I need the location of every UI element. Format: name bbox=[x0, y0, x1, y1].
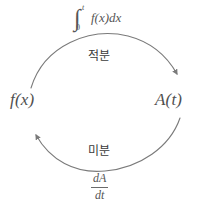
cycle-diagram: f(x) A(t) 적분 미분 ∫ t 0 f(x)dx dA dt bbox=[0, 0, 212, 214]
derivative-fraction: dA dt bbox=[91, 172, 108, 203]
integral-upper-limit: t bbox=[82, 3, 84, 12]
node-label-fx: f(x) bbox=[10, 90, 34, 110]
integrand: f(x)dx bbox=[91, 10, 121, 26]
formula-integral: ∫ t 0 f(x)dx bbox=[74, 6, 121, 30]
edge-label-integration: 적분 bbox=[88, 46, 111, 63]
fraction-denominator: dt bbox=[91, 188, 108, 203]
integral-lower-limit: 0 bbox=[76, 23, 80, 32]
node-label-at: A(t) bbox=[155, 90, 182, 110]
formula-derivative: dA dt bbox=[91, 172, 108, 203]
edge-label-differentiation: 미분 bbox=[88, 141, 111, 158]
fraction-numerator: dA bbox=[91, 172, 108, 187]
